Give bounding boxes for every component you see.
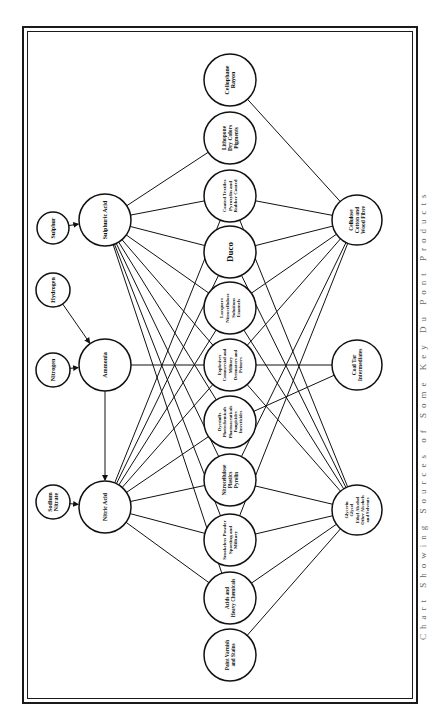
node-nitrogen: Nitrogen [36, 353, 70, 387]
edge-sulphuric_acid-to-coated_textiles [131, 201, 205, 215]
edge-glycerin-to-nitrocellulose [255, 486, 332, 504]
node-label: Solutions [231, 298, 236, 318]
node-coated-textiles: Coated TextilesPyroxylin andRubber Coate… [204, 170, 256, 222]
node-label: Sodium [47, 492, 53, 512]
node-hydrogen: Hydrogen [36, 273, 70, 307]
node-label: Wood Fibre [360, 206, 366, 234]
node-label: Sulphur [50, 217, 56, 238]
edge-glycerin-to-acids_heavy [251, 524, 336, 583]
node-label: Intermediates [357, 349, 363, 382]
node-label: and Stains [230, 643, 236, 666]
node-label: Nitrate [53, 493, 59, 512]
node-label: Lacquers [219, 298, 224, 318]
node-label: Heavy Chemicals [230, 579, 236, 617]
node-label: Primers [238, 357, 243, 373]
node-smokeless: Smokeless PowderSporting andMilitary [204, 514, 256, 566]
edge-cellulose-to-nitrocellulose [241, 242, 346, 456]
node-lacquers: LacquersNitrocelluloseSolutionsEnamels [204, 282, 256, 334]
node-coal-tar: Coal TarIntermediates [332, 340, 382, 390]
node-label: Cellulose [348, 209, 354, 231]
node-acids-heavy: Acids andHeavy Chemicals [204, 572, 256, 624]
node-label: Rubber Coated [233, 179, 238, 212]
arrow-sulphur-to-sulphuric_acid [69, 224, 79, 225]
arrow-sodium_nitrate-to-nitric_acid [70, 504, 78, 505]
edge-sulphuric_acid-to-explosives [122, 240, 213, 346]
node-ammonia: Ammonia [79, 339, 131, 391]
node-label: Pigments [233, 127, 239, 149]
node-label: Cotton and [354, 207, 360, 233]
edge-glycerin-to-duco [241, 275, 345, 487]
node-sulphuric-acid: Sulphuric Acid [79, 194, 131, 246]
node-explosives: ExplosivesCommercial andMilitaryDetonato… [204, 339, 256, 391]
edge-nitric_acid-to-dyestuffs [127, 437, 209, 493]
node-label: Sulphuric Acid [102, 200, 108, 239]
edge-cellulose-to-duco [255, 226, 333, 246]
edge-glycerin-to-explosives [247, 385, 340, 492]
node-label: Smokeless Powder [222, 519, 227, 559]
node-label: Military [233, 531, 238, 549]
edge-cellulose-to-cellophane [247, 99, 340, 201]
edge-nitric_acid-to-smokeless [130, 514, 205, 534]
edge-nitric_acid-to-lacquers [119, 330, 216, 485]
node-label: Enamels [236, 299, 241, 317]
flow-diagram: SulphurSulphuric AcidHydrogenNitrogenAmm… [0, 0, 436, 728]
node-label: Coated Textiles [222, 180, 227, 213]
arrow-hydrogen-to-ammonia [63, 304, 90, 343]
node-label: and Solvents [365, 497, 370, 522]
edge-nitric_acid-to-nitrocellulose [130, 485, 204, 501]
node-label: Lithopone [221, 125, 227, 150]
node-paint: Paint Varnishand Stains [204, 629, 256, 681]
node-nitric-acid: Nitric Acid [79, 481, 131, 533]
node-label: Sporting and [228, 526, 233, 554]
node-duco: Duco [204, 226, 256, 278]
node-cellulose: CelluloseCotton andWood Fibre [332, 195, 382, 245]
edge-glycerin-to-coated_textiles [240, 220, 348, 487]
node-label: Duco [225, 242, 235, 262]
node-sodium-nitrate: SodiumNitrate [36, 485, 70, 519]
edge-cellulose-to-explosives [247, 239, 340, 346]
node-label: Rayon [230, 71, 236, 88]
node-label: Pyroxylin and [228, 181, 233, 211]
node-lithopone: LithoponeDry ColorsPigments [204, 112, 256, 164]
node-label: Hydrogen [50, 277, 56, 303]
node-dyestuffs: DyestuffsPhotochemicalsPharmaceuticalsFu… [204, 396, 256, 448]
edge-glycerin-to-smokeless [255, 516, 332, 534]
diagram-page: SulphurSulphuric AcidHydrogenNitrogenAmm… [0, 0, 436, 728]
node-nitrocellulose: NitrocellulosePlasticsPyrolin [204, 454, 256, 506]
figure-caption: Chart Showing Sources of Some Key Du Pon… [418, 190, 428, 641]
nodes-layer: SulphurSulphuric AcidHydrogenNitrogenAmm… [36, 54, 382, 681]
node-label: Dry Colors [227, 125, 233, 151]
node-label: Nitrocellulose [225, 293, 230, 323]
node-cellophane: CellophaneRayon [204, 54, 256, 106]
edge-sulphuric_acid-to-acids_heavy [113, 245, 222, 574]
node-label: Nitric Acid [102, 492, 108, 521]
edge-glycerin-to-paint [247, 529, 340, 636]
node-label: Pyrolin [233, 472, 239, 488]
edge-sulphuric_acid-to-duco [130, 226, 205, 245]
arrow-nitrogen-to-ammonia [70, 368, 78, 369]
node-label: Cellophane [224, 65, 230, 94]
node-label: Coal Tar [351, 354, 357, 375]
node-label: Ammonia [102, 352, 108, 377]
node-label: Insecticides [238, 410, 243, 433]
edge-cellulose-to-coated_textiles [256, 201, 333, 216]
node-sulphur: Sulphur [37, 212, 69, 244]
node-glycerin: GlycerinGlycolEthyl AlcoholOther Alcohol… [332, 485, 382, 535]
edge-sulphuric_acid-to-lithopone [127, 152, 209, 205]
node-label: Nitrogen [50, 358, 56, 381]
edge-nitric_acid-to-explosives [122, 385, 213, 488]
